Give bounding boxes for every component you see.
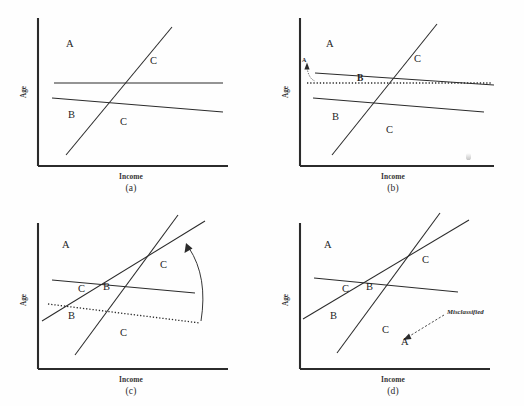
region-label-c-lower: C: [120, 328, 127, 339]
steep-rising-boundary: [66, 27, 172, 155]
region-label-c-upper: C: [160, 260, 167, 271]
scan-smudge: [466, 153, 471, 160]
x-axis-label: Income: [0, 375, 262, 384]
panel-d: A C C B B C A Misclassified Age Income (…: [262, 203, 524, 406]
upper-sloping-boundary: [314, 278, 458, 292]
misclassified-pointer-line: [408, 315, 444, 337]
region-label-a-upper: A: [324, 240, 332, 251]
rotated-upper-boundary: [315, 73, 494, 85]
region-label-c-lower: C: [120, 117, 127, 128]
figure-panel-grid: A C B C Age Income (a) A C B C B A Age: [0, 0, 524, 406]
region-label-a: A: [62, 240, 70, 251]
region-label-c-upper: C: [422, 255, 429, 266]
region-label-b-lower: B: [68, 311, 75, 322]
rotation-arc: [189, 248, 203, 321]
region-label-c-lower: C: [382, 325, 389, 336]
region-label-c-upper: C: [414, 54, 421, 65]
rising-boundary: [303, 220, 469, 319]
rotation-pointer-label-a: A: [302, 57, 306, 63]
upper-sloping-boundary: [52, 280, 195, 293]
region-label-c-lower: C: [386, 125, 393, 136]
region-label-b-lower: B: [330, 311, 337, 322]
region-label-c-upper: C: [150, 56, 157, 67]
panel-a: A C B C Age Income (a): [0, 0, 262, 203]
y-axis-label: Age: [282, 294, 290, 306]
y-axis-label: Age: [20, 86, 28, 98]
region-label-b-lower: B: [332, 112, 339, 123]
misclassified-annotation-label: Misclassified: [447, 309, 484, 316]
panel-caption-d: (d): [262, 386, 524, 396]
panel-caption-c: (c): [0, 386, 262, 396]
steep-rising-boundary: [332, 24, 437, 155]
y-axis-label: Age: [20, 294, 28, 306]
region-label-b-mid: B: [366, 282, 373, 293]
x-axis-label: Income: [262, 375, 524, 384]
x-axis-label: Income: [0, 172, 262, 181]
rotated-lower-boundary: [42, 221, 205, 321]
panel-caption-b: (b): [262, 183, 524, 193]
y-axis-label: Age: [282, 86, 290, 98]
panel-c: A C C B B C Age Income (c): [0, 203, 262, 406]
region-label-a: A: [326, 39, 334, 50]
region-label-b: B: [68, 110, 75, 121]
lower-sloping-boundary: [313, 98, 484, 112]
rotation-pointer-arrowhead: [304, 63, 309, 70]
panel-caption-a: (a): [0, 183, 262, 193]
rotation-pointer-curve: [307, 68, 315, 81]
region-label-b-moved: B: [357, 74, 363, 84]
region-label-c-mid: C: [78, 284, 85, 295]
region-label-a: A: [66, 39, 74, 50]
region-label-a-misclassified: A: [401, 337, 409, 348]
region-label-c-mid: C: [342, 284, 349, 295]
lower-sloping-boundary: [52, 98, 223, 112]
region-label-b-mid: B: [103, 282, 110, 293]
x-axis-label: Income: [262, 172, 524, 181]
panel-b: A C B C B A Age Income (b): [262, 0, 524, 203]
